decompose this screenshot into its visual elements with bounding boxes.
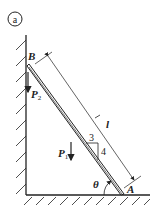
- wall: [16, 35, 26, 195]
- length-dimension: [35, 52, 141, 188]
- ladder-rod: [27, 64, 124, 195]
- slope-run-label: 3: [89, 132, 94, 143]
- svg-text:a: a: [13, 14, 18, 25]
- point-a-label: A: [126, 183, 134, 195]
- point-b-label: B: [27, 50, 35, 62]
- angle-label: θ: [93, 178, 99, 190]
- force-p2-label: P2: [31, 88, 42, 102]
- floor: [24, 195, 150, 205]
- ladder-diagram: a: [0, 0, 157, 222]
- panel-label: a: [8, 12, 22, 26]
- length-label: l: [106, 118, 110, 130]
- slope-rise-label: 4: [101, 146, 106, 157]
- angle-arc: [104, 181, 111, 195]
- force-p1-label: P1: [58, 147, 69, 161]
